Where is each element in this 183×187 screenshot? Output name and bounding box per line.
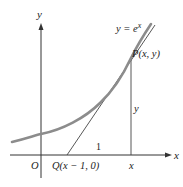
- vertical-length-label: y: [133, 103, 139, 114]
- x-axis-label: x: [173, 149, 179, 161]
- y-axis-arrow-icon: [39, 23, 44, 30]
- origin-label: O: [31, 160, 39, 171]
- exponential-curve: [12, 24, 151, 142]
- point-q-label: Q(x − 1, 0): [52, 160, 100, 172]
- x-axis: [10, 153, 172, 158]
- y-axis-label: y: [36, 8, 42, 20]
- curve-equation-label: y = ex: [115, 21, 142, 34]
- point-p-label: P(x, y): [131, 48, 160, 60]
- x-axis-arrow-icon: [165, 153, 172, 158]
- tangent-exponential-diagram: y x y = ex P(x, y) y 1 O Q(x − 1, 0) x: [0, 0, 183, 187]
- base-length-label: 1: [96, 141, 101, 152]
- x-foot-label: x: [128, 160, 134, 171]
